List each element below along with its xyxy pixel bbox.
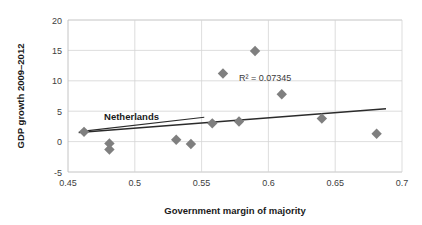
y-tick-15: 15 bbox=[52, 46, 62, 56]
x-tick-050: 0.5 bbox=[129, 178, 142, 188]
y-tick-minus5: -5 bbox=[54, 168, 62, 178]
scatter-chart: 20 15 10 5 0 -5 0.45 0.5 0.55 0.6 0.65 0… bbox=[0, 0, 422, 225]
netherlands-annotation: Netherlands bbox=[104, 111, 159, 122]
y-tick-20: 20 bbox=[52, 16, 62, 26]
y-axis-title: GDP growth 2009–2012 bbox=[15, 44, 26, 149]
y-tick-10: 10 bbox=[52, 76, 62, 86]
x-tick-070: 0.7 bbox=[396, 178, 409, 188]
x-tick-045: 0.45 bbox=[59, 178, 77, 188]
y-tick-0: 0 bbox=[57, 137, 62, 147]
x-axis-title: Government margin of majority bbox=[164, 205, 306, 216]
y-tick-5: 5 bbox=[57, 107, 62, 117]
x-axis-tick-labels: 0.45 0.5 0.55 0.6 0.65 0.7 bbox=[59, 178, 408, 188]
plot-area-background bbox=[68, 20, 402, 172]
chart-canvas: 20 15 10 5 0 -5 0.45 0.5 0.55 0.6 0.65 0… bbox=[0, 0, 422, 225]
r-squared-annotation: R² = 0.07345 bbox=[239, 73, 291, 83]
x-tick-055: 0.55 bbox=[193, 178, 211, 188]
y-axis-tick-labels: 20 15 10 5 0 -5 bbox=[52, 16, 62, 178]
x-tick-060: 0.6 bbox=[262, 178, 275, 188]
x-tick-065: 0.65 bbox=[326, 178, 344, 188]
